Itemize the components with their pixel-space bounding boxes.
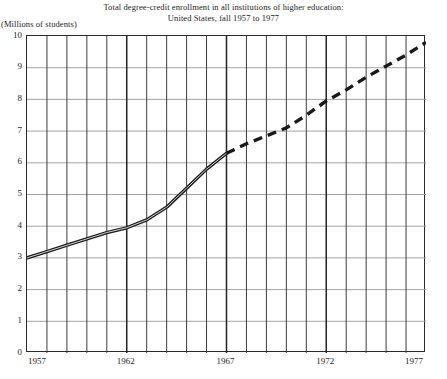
y-axis-tick-label: 1 (0, 316, 22, 325)
x-axis-tick-label: 1977 (394, 357, 434, 366)
y-axis-tick-label: 4 (0, 221, 22, 230)
y-axis-tick-label: 8 (0, 94, 22, 103)
y-axis-tick-label: 3 (0, 252, 22, 261)
y-axis-tick-label: 9 (0, 62, 22, 71)
x-axis-tick-label: 1972 (305, 357, 345, 366)
x-axis-tick-label: 1962 (106, 357, 146, 366)
y-axis-tick-label: 5 (0, 189, 22, 198)
chart-title-line-1: Total degree-credit enrollment in all in… (0, 2, 447, 13)
chart-canvas (27, 36, 426, 353)
y-axis-tick-label: 6 (0, 157, 22, 166)
plot-area (26, 35, 425, 352)
x-axis-tick-label: 1957 (17, 357, 57, 366)
x-axis-tick-label: 1967 (206, 357, 246, 366)
y-axis-tick-label: 10 (0, 31, 22, 40)
y-axis-tick-label: 7 (0, 126, 22, 135)
y-axis-label: (Millions of students) (1, 19, 77, 29)
y-axis-tick-label: 2 (0, 284, 22, 293)
y-axis-tick-label: 0 (0, 348, 22, 357)
